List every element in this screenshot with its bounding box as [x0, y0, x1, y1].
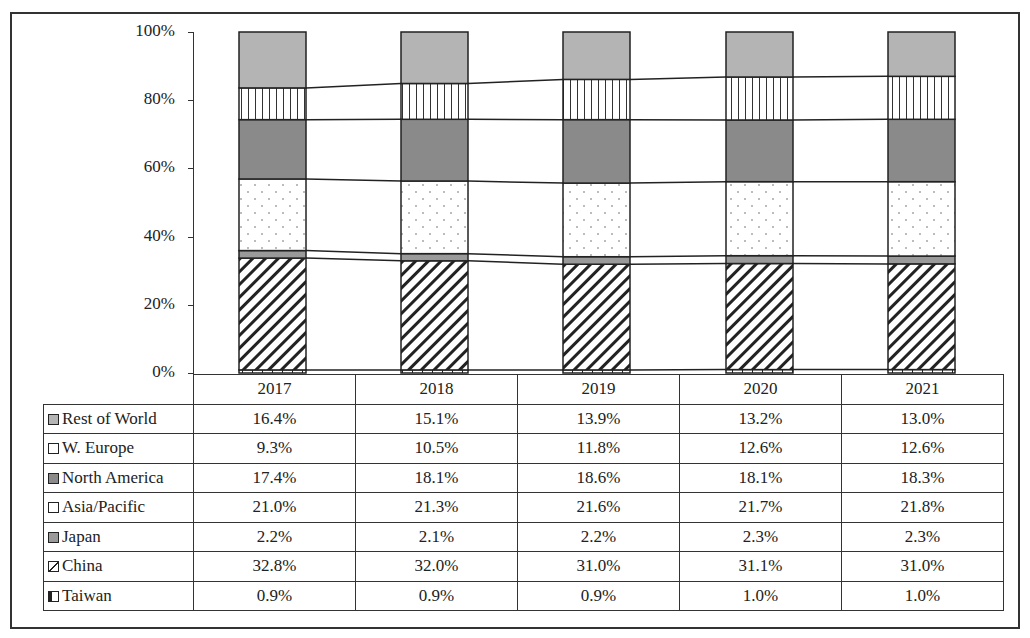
table-cell: 18.3% [842, 463, 1004, 493]
table-cell: 15.1% [356, 404, 518, 434]
table-cell: 13.9% [518, 404, 680, 434]
y-axis [193, 32, 194, 374]
table-cell: 18.1% [356, 463, 518, 493]
table-cell: 31.0% [842, 552, 1004, 582]
legend-label: Taiwan [62, 586, 112, 605]
table-header-year: 2017 [194, 375, 356, 405]
table-cell: 21.8% [842, 493, 1004, 523]
table-cell: 31.0% [518, 552, 680, 582]
table-cell: 21.0% [194, 493, 356, 523]
table-header-year: 2019 [518, 375, 680, 405]
legend-entry: China [44, 552, 194, 582]
legend-entry: Japan [44, 522, 194, 552]
table-cell: 31.1% [680, 552, 842, 582]
table-cell: 10.5% [356, 434, 518, 464]
table-cell: 2.3% [842, 522, 1004, 552]
legend-swatch-icon [48, 561, 59, 572]
legend-label: North America [62, 468, 164, 487]
table-header-year: 2021 [842, 375, 1004, 405]
table-cell: 11.8% [518, 434, 680, 464]
legend-entry: North America [44, 463, 194, 493]
table-row: Taiwan0.9%0.9%0.9%1.0%1.0% [44, 581, 1004, 611]
legend-swatch-icon [48, 414, 59, 425]
table-header-year: 2020 [680, 375, 842, 405]
table-cell: 13.0% [842, 404, 1004, 434]
table-cell: 0.9% [356, 581, 518, 611]
table-cell: 1.0% [842, 581, 1004, 611]
legend-label: Rest of World [62, 409, 157, 428]
table-cell: 2.1% [356, 522, 518, 552]
y-tick-label: 60% [105, 157, 175, 177]
legend-entry: W. Europe [44, 434, 194, 464]
y-tick-label: 40% [105, 226, 175, 246]
table-cell: 21.7% [680, 493, 842, 523]
table-row: China32.8%32.0%31.0%31.1%31.0% [44, 552, 1004, 582]
y-tick-label: 20% [105, 294, 175, 314]
table-cell: 21.3% [356, 493, 518, 523]
legend-label: W. Europe [62, 438, 134, 457]
legend-label: Japan [62, 527, 101, 546]
legend-swatch-icon [48, 532, 59, 543]
legend-swatch-icon [48, 473, 59, 484]
table-cell: 13.2% [680, 404, 842, 434]
legend-swatch-icon [48, 502, 59, 513]
table-cell: 18.1% [680, 463, 842, 493]
legend-entry: Rest of World [44, 404, 194, 434]
legend-label: Asia/Pacific [62, 497, 145, 516]
table-cell: 21.6% [518, 493, 680, 523]
table-cell: 2.2% [518, 522, 680, 552]
table-header-year: 2018 [356, 375, 518, 405]
table-corner [44, 375, 194, 405]
table-cell: 32.8% [194, 552, 356, 582]
y-tick-label: 100% [105, 21, 175, 41]
table-row: W. Europe9.3%10.5%11.8%12.6%12.6% [44, 434, 1004, 464]
table-cell: 17.4% [194, 463, 356, 493]
table-cell: 1.0% [680, 581, 842, 611]
table-cell: 0.9% [518, 581, 680, 611]
table-cell: 32.0% [356, 552, 518, 582]
legend-swatch-icon [48, 443, 59, 454]
legend-entry: Asia/Pacific [44, 493, 194, 523]
table-row: Asia/Pacific21.0%21.3%21.6%21.7%21.8% [44, 493, 1004, 523]
legend-label: China [62, 556, 103, 575]
table-cell: 0.9% [194, 581, 356, 611]
table-cell: 12.6% [680, 434, 842, 464]
table-cell: 16.4% [194, 404, 356, 434]
data-table: 20172018201920202021Rest of World16.4%15… [43, 374, 1004, 611]
y-tick-label: 80% [105, 89, 175, 109]
table-cell: 2.2% [194, 522, 356, 552]
table-row: North America17.4%18.1%18.6%18.1%18.3% [44, 463, 1004, 493]
legend-entry: Taiwan [44, 581, 194, 611]
table-cell: 18.6% [518, 463, 680, 493]
table-row: Rest of World16.4%15.1%13.9%13.2%13.0% [44, 404, 1004, 434]
table-cell: 12.6% [842, 434, 1004, 464]
legend-swatch-icon [48, 591, 59, 602]
table-row: Japan2.2%2.1%2.2%2.3%2.3% [44, 522, 1004, 552]
table-cell: 9.3% [194, 434, 356, 464]
table-cell: 2.3% [680, 522, 842, 552]
